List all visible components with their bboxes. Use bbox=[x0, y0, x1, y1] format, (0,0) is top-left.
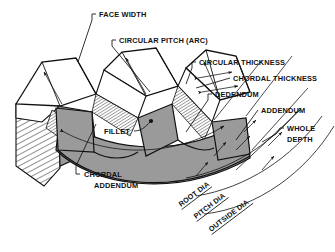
tooth-front-3 bbox=[212, 118, 250, 160]
gear-body-group bbox=[16, 48, 250, 186]
leader-face-width bbox=[78, 14, 96, 62]
fillet-marker-dot bbox=[149, 119, 153, 123]
tooth-front-1 bbox=[56, 108, 94, 152]
tooth-top-1 bbox=[16, 58, 96, 106]
label-circular-thickness: CIRCULAR THICKNESS bbox=[199, 58, 285, 67]
label-fillet: FILLET bbox=[104, 127, 130, 136]
label-circular-pitch: CIRCULAR PITCH (ARC) bbox=[119, 36, 208, 45]
label-chordal-thickness: CHORDAL THICKNESS bbox=[233, 74, 317, 83]
label-whole-depth-line2: DEPTH bbox=[287, 135, 313, 144]
label-face-width: FACE WIDTH bbox=[99, 10, 146, 19]
label-whole-depth-line1: WHOLE bbox=[287, 124, 315, 133]
label-chordal-addendum-line1: CHORDAL bbox=[84, 170, 122, 179]
label-addendum: ADDENDUM bbox=[261, 106, 305, 115]
label-dedendum: DEDENDUM bbox=[215, 90, 259, 99]
gear-nomenclature-diagram: FACE WIDTH CIRCULAR PITCH (ARC) CIRCULAR… bbox=[0, 0, 335, 252]
diagram-canvas: FACE WIDTH CIRCULAR PITCH (ARC) CIRCULAR… bbox=[0, 0, 335, 252]
label-chordal-addendum-line2: ADDENDUM bbox=[94, 181, 138, 190]
